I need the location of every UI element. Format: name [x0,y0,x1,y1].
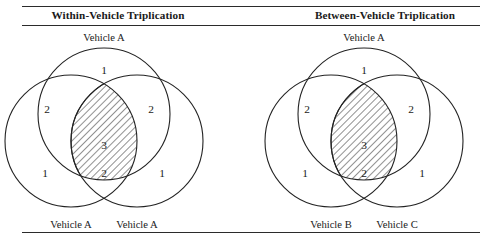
left-venn-center-hatch [30,40,210,207]
left-venn-bottom-right-label: Vehicle A [92,219,182,230]
left-venn-top-label: Vehicle A [59,32,149,43]
left-venn-region-center-triple: 3 [94,139,114,151]
right-venn-region-bottom-pair: 2 [354,167,374,179]
right-venn-region-bottom-left-only: 1 [295,167,315,179]
right-venn-region-top-left-pair: 2 [297,103,317,115]
left-venn-region-top-only: 1 [94,64,114,76]
left-venn-region-bottom-right-only: 1 [152,167,172,179]
right-venn-center-hatch [290,40,470,207]
right-venn-bottom-right-label: Vehicle C [352,219,442,230]
left-venn-region-top-right-pair: 2 [141,103,161,115]
left-venn-region-bottom-pair: 2 [94,167,114,179]
left-venn-region-bottom-left-only: 1 [35,167,55,179]
venn-figure: Within-Vehicle Triplication Between-Vehi… [0,0,497,238]
right-venn-region-top-right-pair: 2 [401,103,421,115]
right-venn-region-top-only: 1 [354,64,374,76]
right-venn-top-label: Vehicle A [319,32,409,43]
right-venn-region-center-triple: 3 [354,139,374,151]
left-venn-region-top-left-pair: 2 [37,103,57,115]
right-venn-region-bottom-right-only: 1 [412,167,432,179]
